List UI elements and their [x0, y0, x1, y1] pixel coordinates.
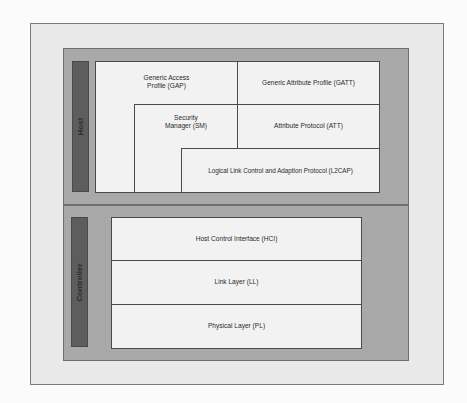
ll-label: Link Layer (LL) [215, 278, 259, 286]
l2cap-layer: Logical Link Control and Adaption Protoc… [181, 148, 380, 193]
gatt-label: Generic Attribute Profile (GATT) [262, 79, 355, 87]
gatt-layer: Generic Attribute Profile (GATT) [237, 61, 380, 105]
pl-label: Physical Layer (PL) [208, 322, 265, 330]
hci-layer: Host Control Interface (HCI) [111, 217, 362, 261]
host-label: Host [76, 118, 85, 136]
sm-line1: Security [165, 114, 207, 122]
att-layer: Attribute Protocol (ATT) [237, 104, 380, 149]
gap-line2: Profile (GAP) [144, 82, 190, 90]
l2cap-label: Logical Link Control and Adaption Protoc… [208, 167, 353, 175]
gap-line1: Generic Access [144, 74, 190, 82]
host-controller-divider [64, 204, 408, 206]
pl-layer: Physical Layer (PL) [111, 304, 362, 349]
controller-label: Controller [75, 263, 84, 301]
controller-label-bar: Controller [71, 217, 88, 347]
att-label: Attribute Protocol (ATT) [274, 122, 343, 130]
host-label-bar: Host [72, 61, 89, 192]
hci-label: Host Control Interface (HCI) [196, 235, 278, 243]
sm-line2: Manager (SM) [165, 122, 207, 130]
ll-layer: Link Layer (LL) [111, 260, 362, 305]
